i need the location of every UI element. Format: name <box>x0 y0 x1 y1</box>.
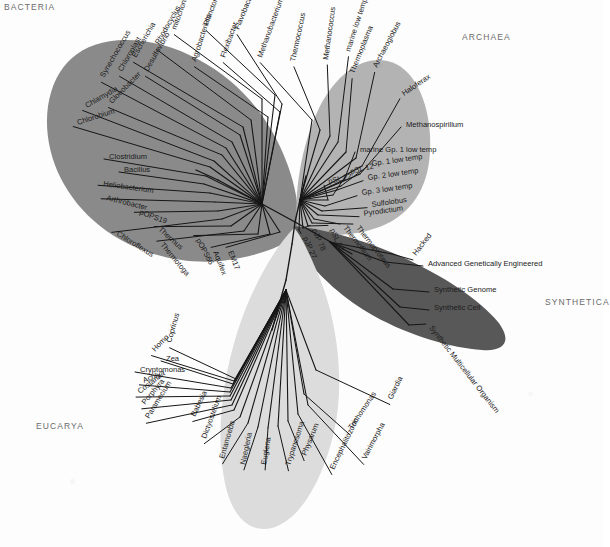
taxon-label-flexibacter: Flexibacter <box>218 20 239 58</box>
taxon-label-zea: Zea <box>166 354 180 363</box>
taxon-label-marine-gp-1-low-temp: marine Gp. 1 low temp <box>360 145 436 154</box>
bacteria-lobe <box>47 40 298 262</box>
leader-psl-50 <box>308 225 328 226</box>
taxon-label-agrobacterium: Agrobacterium <box>189 13 213 63</box>
taxon-label-methanobacterium: Methanobacterium <box>255 0 285 59</box>
taxon-label-clostridium: Clostridium <box>109 152 147 161</box>
domain-label-bacteria: BACTERIA <box>4 2 55 12</box>
taxon-label-bacillus: Bacillus <box>124 165 150 174</box>
taxon-label-synthetic-cell: Synthetic Cell <box>434 303 481 312</box>
domain-label-eucarya: EUCARYA <box>36 421 84 431</box>
taxon-label-trichomonas: Trichomonas <box>346 390 378 431</box>
taxon-label-thermococcus: Thermococcus <box>288 12 307 63</box>
leader-thermococcus <box>294 67 320 130</box>
domain-label-archaea: ARCHAEA <box>462 32 511 42</box>
taxon-label-methanospirillum: Methanospirillum <box>406 120 463 129</box>
taxon-label-advanced-genetically-engineered: Advanced Genetically Engineered <box>428 259 542 268</box>
taxon-label-synthetic-genome: Synthetic Genome <box>434 285 496 294</box>
taxon-label-babesia: Babesia <box>189 389 209 418</box>
taxon-label-hacked: Hacked <box>410 231 433 257</box>
domain-label-synthetica: SYNTHETICA <box>545 297 610 307</box>
taxon-label-giardia: Giardia <box>386 374 405 401</box>
taxon-label-vairimorpha: Vairimorpha <box>360 420 387 461</box>
taxon-label-methanococcus: Methanococcus <box>321 6 337 60</box>
